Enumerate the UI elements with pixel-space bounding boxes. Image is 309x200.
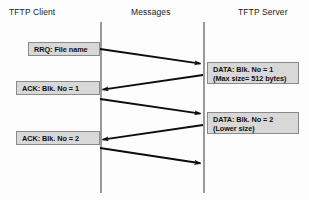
message-box-data-2: DATA: Blk. No = 2 (Lower size) — [207, 112, 299, 134]
message-ack1-text: ACK: Blk. No = 1 — [22, 84, 95, 93]
message-data2-line2: (Lower size) — [213, 124, 294, 133]
message-box-ack-1: ACK: Blk. No = 1 — [16, 81, 100, 95]
tftp-sequence-diagram: TFTP Client Messages TFTP Server RRQ: Fi… — [0, 0, 309, 200]
message-data1-line2: (Max size= 512 bytes) — [213, 74, 294, 83]
message-box-ack-2: ACK: Blk. No = 2 — [16, 131, 100, 145]
message-data2-line1: DATA: Blk. No = 2 — [213, 115, 294, 124]
data1-arrow — [103, 75, 204, 90]
rrq-arrow — [100, 49, 201, 64]
ack2-arrow — [100, 148, 201, 163]
message-rrq-text: RRQ: File name — [34, 45, 95, 54]
message-data1-line1: DATA: Blk. No = 1 — [213, 65, 294, 74]
message-box-data-1: DATA: Blk. No = 1 (Max size= 512 bytes) — [207, 62, 299, 84]
message-box-rrq: RRQ: File name — [28, 42, 100, 56]
data2-arrow — [103, 125, 204, 140]
message-ack2-text: ACK: Blk. No = 2 — [22, 134, 95, 143]
ack1-arrow — [100, 99, 201, 114]
arrow-layer — [0, 0, 309, 200]
